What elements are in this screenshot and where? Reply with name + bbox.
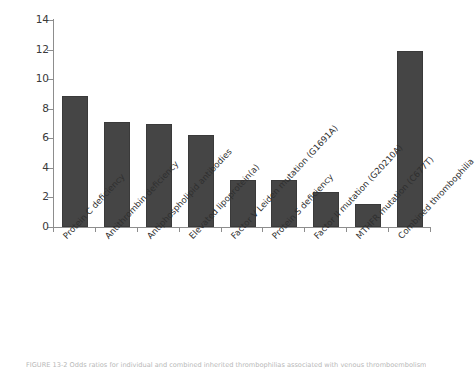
y-tick-label: 0 xyxy=(42,220,49,233)
x-tick-mark xyxy=(346,227,347,232)
y-tick-label: 4 xyxy=(42,161,49,174)
y-tick-label: 6 xyxy=(42,131,49,144)
y-tick-label: 2 xyxy=(42,190,49,203)
x-tick-mark xyxy=(304,227,305,232)
y-tick-label: 8 xyxy=(42,102,49,115)
y-tick-label: 10 xyxy=(36,72,49,85)
x-tick-mark xyxy=(262,227,263,232)
x-tick-mark xyxy=(95,227,96,232)
bar xyxy=(397,51,423,227)
x-tick-mark xyxy=(430,227,431,232)
y-tick-label: 12 xyxy=(36,43,49,56)
plot-area xyxy=(54,20,430,227)
figure-caption: FIGURE 13-2 Odds ratios for individual a… xyxy=(26,361,426,369)
x-tick-mark xyxy=(53,227,54,232)
x-tick-mark xyxy=(388,227,389,232)
x-tick-mark xyxy=(137,227,138,232)
x-tick-mark xyxy=(179,227,180,232)
x-tick-mark xyxy=(221,227,222,232)
y-tick-label: 14 xyxy=(36,13,49,26)
